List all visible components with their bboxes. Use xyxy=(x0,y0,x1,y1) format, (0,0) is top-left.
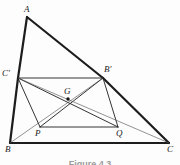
vertex-label-B-prime: B' xyxy=(104,65,111,74)
side-AC xyxy=(27,17,103,78)
side-AB xyxy=(18,17,27,78)
figure-canvas xyxy=(0,0,180,165)
points-layer xyxy=(66,97,69,100)
vertex-label-G: G xyxy=(64,87,71,96)
figure-caption: Figure 4.3 xyxy=(0,159,180,165)
vertex-label-P: P xyxy=(35,129,41,138)
vertex-label-C: C xyxy=(167,145,173,154)
median-BBp xyxy=(10,78,103,143)
side-CpB xyxy=(10,78,18,143)
segments-layer xyxy=(10,17,169,143)
diagonal-PBp xyxy=(40,78,103,127)
geometry-figure: A B C C' B' P Q G Figure 4.3 xyxy=(0,0,180,165)
vertex-label-A: A xyxy=(24,5,30,14)
segment-CpP xyxy=(18,78,40,127)
vertex-label-C-prime: C' xyxy=(2,69,10,78)
vertex-label-B: B xyxy=(5,145,11,154)
vertex-label-Q: Q xyxy=(116,129,123,138)
point-marker-G xyxy=(66,97,69,100)
